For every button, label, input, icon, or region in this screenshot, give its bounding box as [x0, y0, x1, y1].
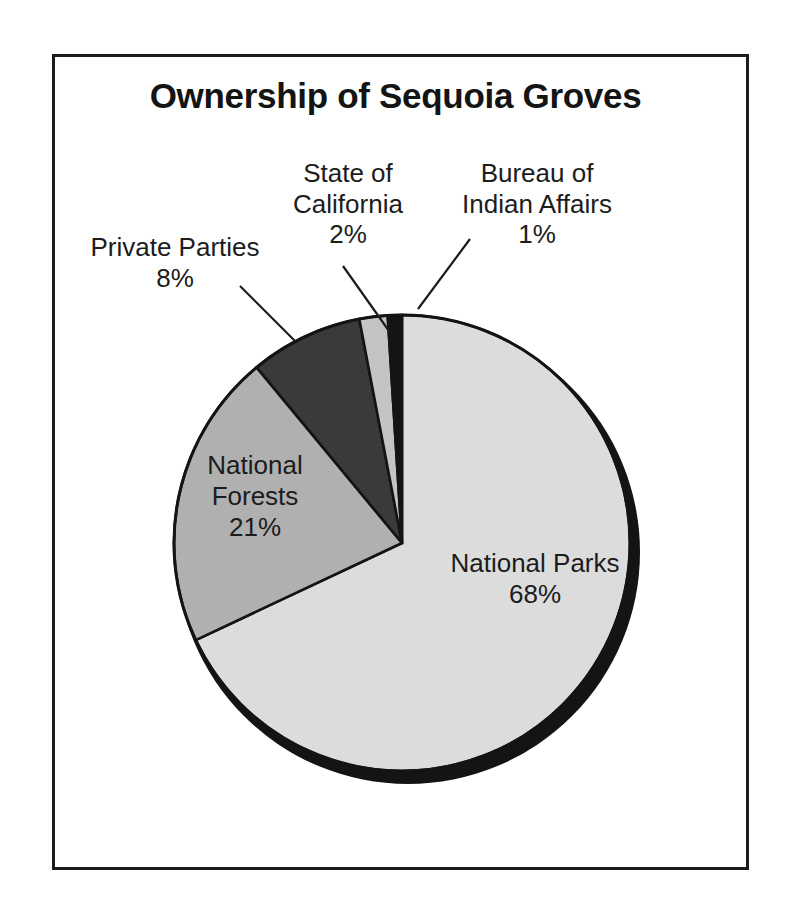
callout-bureau-of-indian-affairs-name-line1: Bureau of	[481, 158, 594, 188]
slice-label-national-forests-line1: National	[207, 450, 302, 480]
callout-private-parties-value: 8%	[60, 263, 290, 294]
callout-state-of-california-value: 2%	[268, 219, 428, 250]
chart-page: Ownership of Sequoia Groves Private Part…	[0, 0, 791, 915]
slice-label-national-parks: National Parks 68%	[420, 548, 650, 610]
callout-private-parties: Private Parties 8%	[60, 232, 290, 293]
callout-state-of-california-name-line1: State of	[303, 158, 393, 188]
page-title: Ownership of Sequoia Groves	[0, 76, 791, 116]
callout-bureau-of-indian-affairs: Bureau of Indian Affairs 1%	[432, 158, 642, 250]
callout-bureau-of-indian-affairs-name-line2: Indian Affairs	[462, 189, 612, 219]
callout-state-of-california-name-line2: California	[293, 189, 403, 219]
callout-state-of-california: State of California 2%	[268, 158, 428, 250]
callout-private-parties-name: Private Parties	[90, 232, 259, 262]
slice-label-national-forests: National Forests 21%	[170, 450, 340, 544]
slice-label-national-parks-value: 68%	[420, 579, 650, 610]
callout-bureau-of-indian-affairs-value: 1%	[432, 219, 642, 250]
slice-label-national-parks-line1: National Parks	[450, 548, 619, 578]
slice-label-national-forests-line2: Forests	[212, 481, 299, 511]
slice-label-national-forests-value: 21%	[170, 512, 340, 543]
